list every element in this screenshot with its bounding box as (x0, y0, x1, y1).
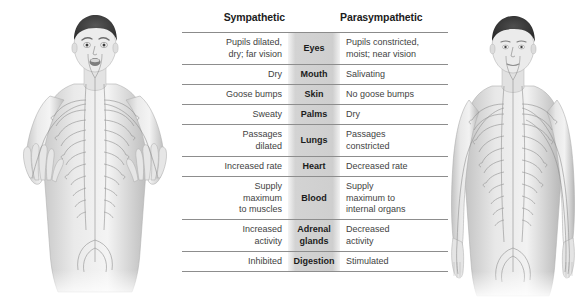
table-row: Increased rateHeartDecreased rate (182, 157, 448, 177)
table-row: Pupils dilated,dry; far visionEyesPupils… (182, 33, 448, 65)
parasympathetic-figure-illustration (440, 0, 586, 300)
cell-organ-name: Eyes (288, 43, 340, 55)
table-row: Supplymaximumto musclesBloodSupplymaximu… (182, 177, 448, 220)
sympathetic-nervous-system-figure (0, 0, 190, 300)
cell-organ-name: Heart (288, 161, 340, 173)
cell-organ-name: Lungs (288, 135, 340, 147)
cell-sympathetic: Dry (182, 69, 282, 81)
table-row: SweatyPalmsDry (182, 105, 448, 125)
cell-parasympathetic: Decreasedactivity (346, 224, 446, 247)
cell-sympathetic: Goose bumps (182, 89, 282, 101)
table-row: DryMouthSalivating (182, 65, 448, 85)
cell-organ-name: Digestion (288, 256, 340, 268)
cell-organ-name: Mouth (288, 69, 340, 81)
cell-organ-name: Adrenalglands (288, 224, 340, 247)
parasympathetic-nervous-system-figure (440, 0, 586, 300)
sympathetic-body (0, 15, 190, 300)
cell-organ-name: Blood (288, 193, 340, 205)
cell-parasympathetic: Pupils constricted,moist; near vision (346, 37, 446, 60)
cell-organ-name: Palms (288, 109, 340, 121)
table-row: PassagesdilatedLungsPassagesconstricted (182, 125, 448, 157)
cell-sympathetic: Increasedactivity (182, 224, 282, 247)
cell-parasympathetic: Dry (346, 109, 446, 121)
column-header-parasympathetic: Parasympathetic (340, 11, 423, 23)
cell-sympathetic: Supplymaximumto muscles (182, 181, 282, 216)
cell-parasympathetic: Supplymaximum tointernal organs (346, 181, 446, 216)
cell-parasympathetic: Stimulated (346, 256, 446, 268)
cell-parasympathetic: No goose bumps (346, 89, 446, 101)
cell-sympathetic: Increased rate (182, 161, 282, 173)
cell-parasympathetic: Salivating (346, 69, 446, 81)
cell-parasympathetic: Passagesconstricted (346, 129, 446, 152)
cell-sympathetic: Inhibited (182, 256, 282, 268)
cell-parasympathetic: Decreased rate (346, 161, 446, 173)
cell-sympathetic: Sweaty (182, 109, 282, 121)
table-row: Goose bumpsSkinNo goose bumps (182, 85, 448, 105)
table-row: IncreasedactivityAdrenalglandsDecreaseda… (182, 220, 448, 252)
cell-organ-name: Skin (288, 89, 340, 101)
table-body: Pupils dilated,dry; far visionEyesPupils… (182, 33, 448, 272)
table-header-row: Sympathetic Parasympathetic (182, 8, 448, 32)
parasympathetic-body (440, 16, 586, 300)
autonomic-comparison-table: Sympathetic Parasympathetic Pupils dilat… (182, 8, 448, 292)
cell-sympathetic: Pupils dilated,dry; far vision (182, 37, 282, 60)
column-header-sympathetic: Sympathetic (182, 11, 285, 23)
cell-sympathetic: Passagesdilated (182, 129, 282, 152)
sympathetic-figure-illustration (0, 0, 190, 300)
table-row: InhibitedDigestionStimulated (182, 252, 448, 272)
